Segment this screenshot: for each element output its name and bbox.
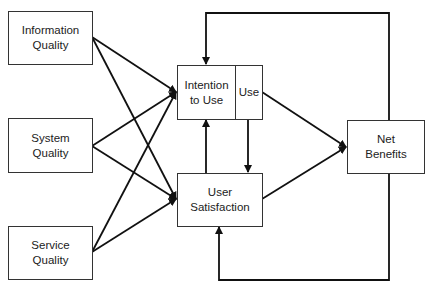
node-service-quality: ServiceQuality	[8, 226, 93, 280]
node-user-satisfaction: UserSatisfaction	[177, 173, 263, 227]
node-label: User	[190, 185, 249, 200]
edge-sysq-intention	[92, 92, 176, 146]
edge-satisfaction-netbenefits	[262, 147, 346, 199]
edge-servq-satisfaction	[92, 199, 176, 252]
node-label: System	[31, 131, 69, 146]
node-label: Information	[22, 23, 80, 38]
node-label: Net	[365, 132, 407, 147]
node-label: Use	[239, 85, 259, 100]
node-label: Quality	[31, 146, 69, 161]
node-intention-to-use: Intentionto Use	[177, 65, 236, 120]
node-system-quality: SystemQuality	[8, 118, 93, 173]
node-label: Intention	[184, 78, 228, 93]
node-label: Satisfaction	[190, 200, 249, 215]
node-label: Benefits	[365, 147, 407, 162]
edge-use-netbenefits	[262, 92, 346, 147]
node-information-quality: InformationQuality	[8, 11, 93, 65]
node-label: Service	[31, 238, 69, 253]
node-net-benefits: NetBenefits	[347, 120, 425, 174]
node-label: Quality	[22, 38, 80, 53]
node-use: Use	[235, 65, 263, 120]
edge-infoq-intention	[92, 37, 176, 92]
node-label: to Use	[184, 93, 228, 108]
node-label: Quality	[31, 253, 69, 268]
edge-servq-intention	[92, 92, 176, 252]
